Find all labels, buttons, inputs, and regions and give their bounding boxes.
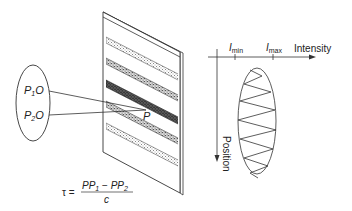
intensity-oscillation-curve (238, 70, 276, 178)
delay-formula: τ = PP1 − PP2 c (62, 180, 133, 205)
source-group: P1O P2O (16, 65, 50, 141)
screen-panel (103, 12, 183, 195)
source-label-p1: P1O (24, 84, 44, 97)
source-label-p2: P2O (24, 109, 44, 122)
intensity-plot: Imin Imax Intensity Position (208, 42, 331, 178)
source-ellipse (16, 65, 50, 141)
tick-label-imax: Imax (266, 42, 283, 54)
intensity-axis-arrow-icon (309, 55, 316, 60)
position-axis-arrow-icon (215, 155, 220, 162)
formula-lhs: τ = (62, 187, 75, 198)
formula-numerator: PP1 − PP2 (82, 180, 128, 192)
tick-label-imin: Imin (229, 42, 243, 54)
position-axis-label: Position (221, 136, 232, 172)
formula-denominator: c (104, 194, 109, 205)
interference-diagram: P1O P2O P τ = PP1 − PP2 c (0, 0, 352, 211)
screen-point-label: P (143, 110, 151, 122)
intensity-axis-label: Intensity (294, 43, 331, 54)
